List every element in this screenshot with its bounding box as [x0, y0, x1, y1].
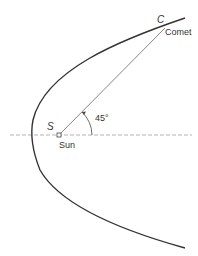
comet-orbit-diagram: S Sun C Comet 45° — [0, 0, 198, 256]
angle-arc — [82, 112, 92, 135]
diagram-canvas — [0, 0, 198, 256]
sun-point-label: S — [47, 122, 54, 132]
comet-point-label: C — [157, 15, 164, 25]
angle-arrow-icon — [82, 112, 86, 116]
angle-label: 45° — [95, 114, 109, 123]
parabolic-orbit — [32, 18, 185, 248]
sun-label: Sun — [59, 141, 75, 150]
sun-comet-line — [59, 28, 165, 135]
comet-label: Comet — [165, 28, 192, 37]
sun-marker-icon — [57, 133, 61, 137]
